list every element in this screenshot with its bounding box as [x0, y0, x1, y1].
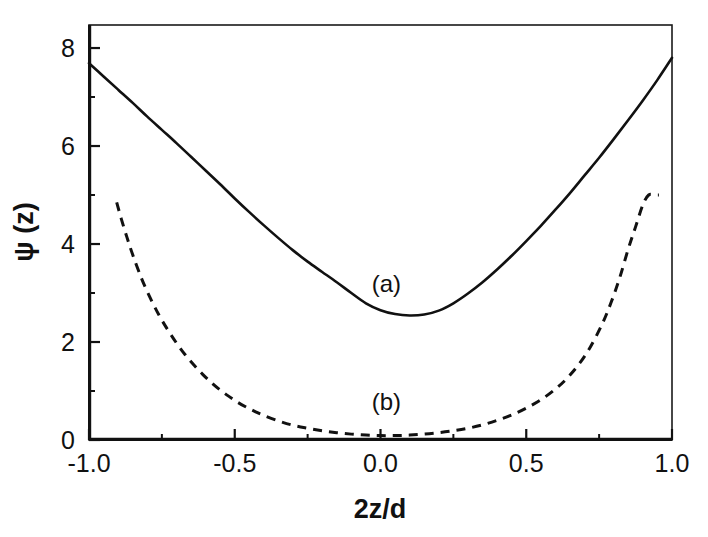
plot-frame: [89, 25, 672, 440]
y-tick-label: 2: [61, 328, 75, 356]
y-tick-label: 0: [61, 426, 75, 454]
y-tick-label: 4: [61, 230, 75, 258]
x-axis-title: 2z/d: [354, 494, 407, 524]
x-tick-label: 1.0: [655, 449, 690, 477]
x-tick-label: 0.0: [363, 449, 398, 477]
x-tick-label: -0.5: [213, 449, 256, 477]
curve-label-a: (a): [372, 270, 401, 297]
y-tick-label: 6: [61, 132, 75, 160]
x-tick-label: 0.5: [509, 449, 544, 477]
psi-vs-2z-over-d-chart: -1.0-0.50.00.51.0 02468 (a)(b) 2z/d ψ (z…: [0, 0, 708, 537]
y-tick-label: 8: [61, 34, 75, 62]
figure-container: -1.0-0.50.00.51.0 02468 (a)(b) 2z/d ψ (z…: [0, 0, 708, 537]
curve-label-b: (b): [372, 388, 401, 415]
y-axis-title: ψ (z): [9, 202, 39, 261]
